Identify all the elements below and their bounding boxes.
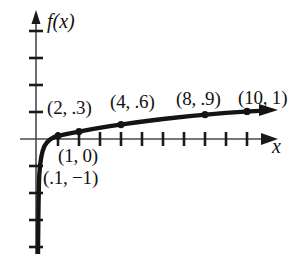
point-label-4: (4, .6) [110,92,155,111]
point-label-8: (8, .9) [176,89,221,108]
data-point-marker [243,108,250,115]
y-axis-arrowhead [32,10,41,24]
point-label-1: (1, 0) [58,146,98,165]
data-point-marker [75,128,82,135]
data-point-marker [54,132,61,139]
data-point-marker [117,121,124,128]
point-label-10: (10, 1) [238,88,287,107]
logarithm-graph-figure: f(x) x (2, .3) (4, .6) (8, .9) (10, 1) (… [0,0,302,254]
plot-area [0,0,302,254]
point-label-2: (2, .3) [47,98,92,117]
y-axis-label: f(x) [47,11,75,31]
x-axis-label: x [272,136,281,156]
data-point-marker [201,111,208,118]
point-label-point-one: (.1, −1) [43,168,98,187]
